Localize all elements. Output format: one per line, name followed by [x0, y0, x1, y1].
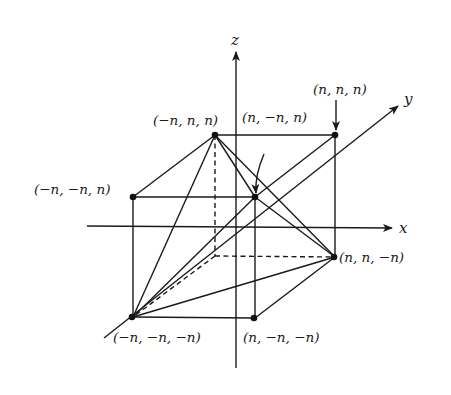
- z-axis-label: z: [230, 31, 239, 49]
- vertex-dot: [212, 132, 219, 139]
- label-top-front-left: (−n, −n, n): [34, 181, 110, 197]
- vertex-dot: [252, 194, 259, 201]
- y-axis-label: y: [403, 90, 413, 108]
- vertex-dot: [251, 315, 258, 322]
- vertex-dot: [332, 132, 339, 139]
- label-top-back-right: (n, n, n): [313, 81, 367, 97]
- cube-tetrahedron-diagram: z x y (−n, n, n) (n, −n, n) (n, n, n) (−…: [0, 0, 451, 395]
- label-top-front-right: (n, −n, n): [242, 109, 307, 125]
- label-top-back-left: (−n, n, n): [153, 112, 218, 128]
- label-bottom-back-right: (n, n, −n): [339, 249, 404, 265]
- vertex-dot: [130, 194, 137, 201]
- x-axis-label: x: [399, 219, 408, 237]
- y-axis: [104, 106, 398, 338]
- label-bottom-front-right: (n, −n, −n): [243, 329, 319, 345]
- pointer-arrow-n-minus-n-n: [256, 154, 264, 193]
- vertex-dot: [129, 314, 136, 321]
- label-bottom-front-left: (−n, −n, −n): [113, 329, 201, 345]
- vertex-dot: [331, 254, 338, 261]
